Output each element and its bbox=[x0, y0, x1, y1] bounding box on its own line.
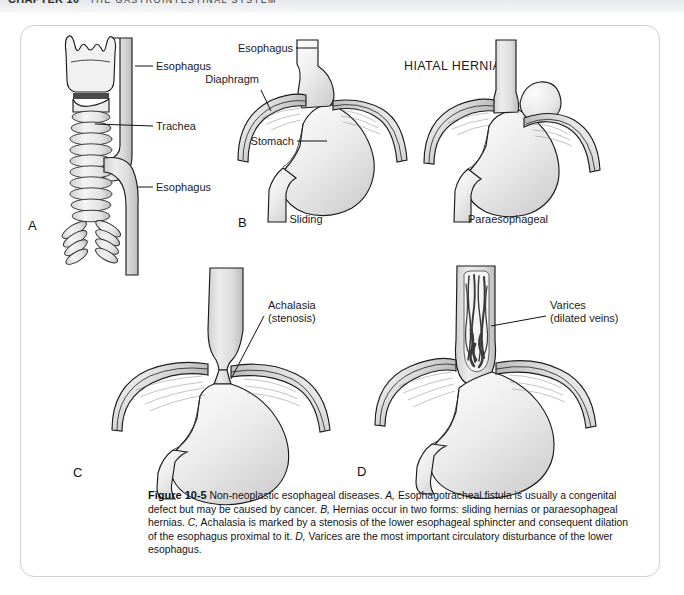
panel-a-illustration bbox=[51, 36, 138, 275]
figure-caption: Figure 10-5 Non-neoplastic esophageal di… bbox=[148, 489, 636, 557]
label-achalasia-line2: (stenosis) bbox=[268, 312, 316, 324]
panel-letter-a: A bbox=[28, 218, 37, 233]
panel-b-sliding-illustration bbox=[238, 40, 407, 222]
label-stomach-b: Stomach bbox=[251, 135, 294, 147]
label-esophagus-b: Esophagus bbox=[238, 42, 294, 54]
cricoid-shape bbox=[73, 99, 109, 112]
leader-varices bbox=[491, 316, 546, 326]
caption-c-letter: C, bbox=[188, 517, 198, 528]
section-title-hiatal-hernias: HIATAL HERNIAS bbox=[404, 59, 510, 73]
caption-a-letter: A, bbox=[385, 490, 395, 501]
label-esophagus-lower: Esophagus bbox=[156, 181, 212, 193]
subcaption-paraesophageal: Paraesophageal bbox=[468, 213, 548, 225]
sliding-stomach-shape bbox=[280, 104, 374, 216]
achalasia-stomach-shape bbox=[170, 384, 288, 505]
achalasia-stenosis-shape bbox=[214, 370, 231, 384]
panel-letter-d: D bbox=[357, 464, 366, 479]
varices-diaphragm-left bbox=[375, 358, 456, 426]
subcaption-sliding: Sliding bbox=[289, 213, 322, 225]
bronchi bbox=[51, 217, 132, 267]
cricoid-band bbox=[73, 93, 109, 99]
label-diaphragm-b: Diaphragm bbox=[205, 73, 259, 85]
caption-b-letter: B, bbox=[320, 504, 330, 515]
label-trachea: Trachea bbox=[156, 120, 197, 132]
label-achalasia-line1: Achalasia bbox=[268, 299, 317, 311]
panel-d-labels: Varices (dilated veins) bbox=[491, 299, 618, 326]
varices-stomach-shape bbox=[429, 372, 554, 499]
label-varices-line2: (dilated veins) bbox=[550, 312, 618, 324]
panel-letter-b: B bbox=[238, 215, 247, 230]
caption-figure-number: Figure 10-5 bbox=[148, 489, 207, 501]
caption-title: Non-neoplastic esophageal diseases. bbox=[210, 490, 383, 501]
para-stomach-shape bbox=[465, 110, 559, 217]
label-varices-line1: Varices bbox=[550, 299, 586, 311]
caption-d-letter: D, bbox=[295, 531, 305, 542]
achalasia-dilated-esophagus bbox=[208, 268, 243, 370]
para-esophagus-shape bbox=[493, 40, 518, 113]
label-esophagus-upper: Esophagus bbox=[156, 60, 212, 72]
panel-letter-c: C bbox=[73, 465, 82, 480]
larynx-shape bbox=[65, 36, 115, 92]
